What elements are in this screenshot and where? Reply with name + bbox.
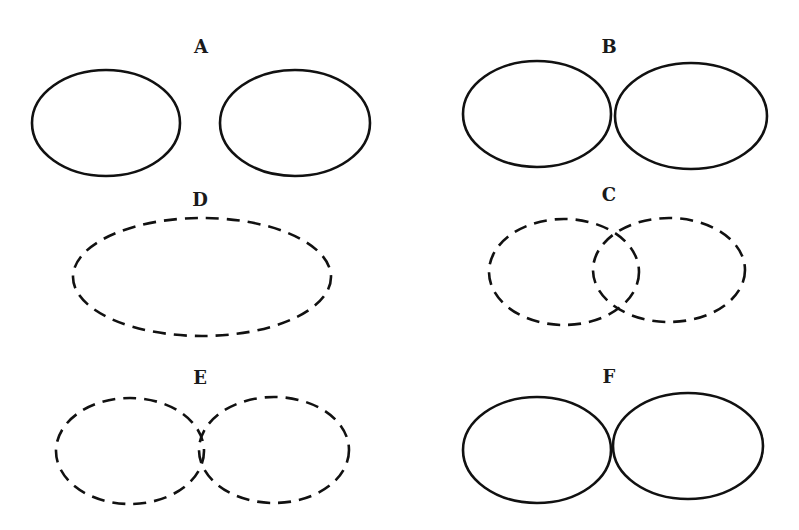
solid-ellipse-2 [220, 70, 370, 176]
ellipse-shapes-canvas [0, 0, 799, 530]
solid-ellipse-1 [32, 70, 180, 176]
panel-c [489, 218, 745, 325]
panel-label-e: E [193, 369, 207, 387]
dashed-ellipse-1 [73, 218, 331, 336]
panel-label-c: C [602, 186, 616, 204]
dashed-ellipse-1 [56, 398, 204, 504]
panel-d [73, 218, 331, 336]
dashed-ellipse-2 [199, 397, 349, 503]
panel-label-d: D [192, 191, 208, 209]
panel-f [463, 393, 763, 503]
solid-ellipse-1 [463, 61, 611, 167]
solid-ellipse-1 [463, 397, 611, 503]
panel-b [463, 61, 767, 169]
panel-label-a: A [194, 38, 208, 56]
panel-e [56, 397, 349, 504]
panel-label-b: B [601, 38, 616, 56]
panel-label-f: F [603, 368, 616, 386]
solid-ellipse-2 [615, 63, 767, 169]
solid-ellipse-2 [613, 393, 763, 499]
ellipse-diagram-figure: A B D C E F [0, 0, 799, 530]
panel-a [32, 70, 370, 176]
